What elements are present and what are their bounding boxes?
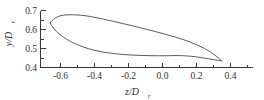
y-axis-title: y/D r bbox=[3, 20, 17, 47]
y-tick-label-1: 0.5 bbox=[25, 44, 37, 54]
x-axis-title-sub: r bbox=[148, 92, 151, 100]
y-tick-label-3: 0.7 bbox=[25, 6, 37, 16]
x-tick-label-3: 0.0 bbox=[157, 71, 169, 81]
plot-svg: 0.4 0.5 0.6 0.7 -0.6 -0.4 -0.2 0.0 0.2 0… bbox=[0, 0, 264, 100]
y-tick-label-2: 0.6 bbox=[25, 25, 37, 35]
y-axis-title-sub: r bbox=[9, 20, 17, 23]
data-curve-upper-surface bbox=[50, 15, 221, 61]
x-axis-title-main: z/D bbox=[124, 86, 140, 97]
y-tick-label-0: 0.4 bbox=[25, 63, 37, 73]
y-axis-title-main: y/D bbox=[3, 31, 14, 47]
x-tick-label-1: -0.4 bbox=[87, 71, 102, 81]
x-tick-label-5: 0.4 bbox=[225, 71, 237, 81]
data-curve-lower-surface bbox=[50, 23, 221, 61]
x-axis-title: z/D r bbox=[124, 86, 151, 100]
x-tick-label-2: -0.2 bbox=[121, 71, 136, 81]
x-tick-label-0: -0.6 bbox=[53, 71, 68, 81]
x-tick-label-4: 0.2 bbox=[191, 71, 203, 81]
chart-figure: 0.4 0.5 0.6 0.7 -0.6 -0.4 -0.2 0.0 0.2 0… bbox=[0, 0, 264, 100]
